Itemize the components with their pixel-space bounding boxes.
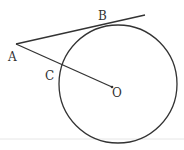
segment-ao xyxy=(16,44,112,87)
label-o: O xyxy=(112,86,122,100)
circle-o xyxy=(59,25,177,143)
label-c: C xyxy=(45,69,54,83)
geometry-diagram: A B C O xyxy=(0,0,184,150)
tangent-line-ab xyxy=(16,15,145,44)
label-b: B xyxy=(98,9,107,23)
label-a: A xyxy=(7,50,17,64)
